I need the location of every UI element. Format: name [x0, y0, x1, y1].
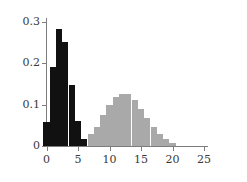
- x-tick: [141, 147, 142, 151]
- x-tick: [173, 147, 174, 151]
- x-tick: [110, 147, 111, 151]
- bar: [106, 105, 112, 146]
- histogram-figure: 051015202500.10.20.3: [0, 0, 247, 182]
- x-tick-label: 25: [189, 154, 219, 165]
- x-tick: [204, 147, 205, 151]
- bar: [100, 115, 106, 146]
- bar: [119, 94, 125, 146]
- bar: [43, 122, 49, 146]
- y-tick: [42, 105, 46, 106]
- y-tick-label: 0: [33, 140, 40, 151]
- x-tick-label: 10: [95, 154, 125, 165]
- x-tick-label: 15: [126, 154, 156, 165]
- bar: [81, 139, 87, 146]
- y-tick-label: 0.1: [23, 99, 41, 110]
- bar: [50, 67, 56, 146]
- bar: [94, 127, 100, 147]
- y-tick-label: 0.3: [23, 16, 41, 27]
- bar: [56, 29, 62, 146]
- bar: [163, 139, 169, 146]
- x-tick: [47, 147, 48, 151]
- y-tick-label: 0.2: [23, 57, 41, 68]
- y-tick-label-wrap: 0: [0, 140, 40, 152]
- y-tick: [42, 22, 46, 23]
- x-tick: [78, 147, 79, 151]
- bar: [62, 42, 68, 146]
- bar: [138, 109, 144, 146]
- x-tick-label: 5: [63, 154, 93, 165]
- y-tick-label-wrap: 0.1: [0, 99, 40, 111]
- x-axis-line: [46, 146, 208, 147]
- y-tick-label-wrap: 0.3: [0, 16, 40, 28]
- y-tick: [42, 146, 46, 147]
- y-tick-label-wrap: 0.2: [0, 57, 40, 69]
- bar: [88, 134, 94, 146]
- y-tick: [42, 63, 46, 64]
- bar: [157, 134, 163, 146]
- bar: [69, 85, 75, 146]
- x-tick-label: 0: [32, 154, 62, 165]
- bar: [144, 118, 150, 146]
- bar: [75, 121, 81, 146]
- bar: [113, 97, 119, 146]
- bar: [169, 143, 175, 146]
- bar: [125, 94, 131, 146]
- x-tick-label: 20: [158, 154, 188, 165]
- plot-area: 051015202500.10.20.3: [0, 0, 247, 182]
- bar: [151, 127, 157, 146]
- bar: [132, 100, 138, 146]
